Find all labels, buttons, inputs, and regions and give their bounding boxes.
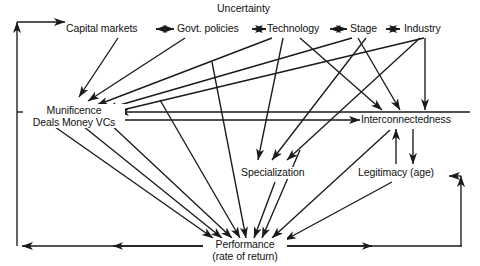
node-specialization: Specialization bbox=[240, 167, 305, 179]
node-munificence-label: Munificence bbox=[24, 104, 124, 116]
node-legitimacy-label: Legitimacy (age) bbox=[358, 166, 434, 178]
node-capital-markets-label: Capital markets bbox=[66, 22, 137, 34]
node-interconnectedness: Interconnectedness bbox=[360, 114, 452, 126]
edge-path4-to-performance bbox=[160, 100, 240, 238]
node-performance-label: Performance bbox=[204, 238, 286, 250]
node-stage-label: Stage bbox=[350, 22, 377, 34]
node-govt-policies-label: Govt. policies bbox=[177, 22, 239, 34]
edge-vcs-to-performance bbox=[108, 122, 232, 238]
edge-stage-to-specialization bbox=[272, 38, 366, 160]
node-industry-label: Industry bbox=[404, 22, 441, 34]
edge-performance-to-capital-markets bbox=[17, 22, 65, 246]
edge-deals-to-performance bbox=[48, 122, 213, 238]
edge-stage-to-munificence bbox=[106, 38, 352, 109]
edge-money-to-performance bbox=[78, 122, 222, 238]
node-technology-label: Technology bbox=[267, 22, 319, 34]
node-stage: Stage bbox=[349, 23, 378, 35]
node-industry: Industry bbox=[403, 23, 442, 35]
node-specialization-label: Specialization bbox=[241, 166, 304, 178]
edge-path7-to-performance bbox=[262, 150, 300, 238]
node-capital-markets: Capital markets bbox=[65, 23, 138, 35]
edge-capital-to-munificence bbox=[79, 38, 118, 97]
node-performance-sublabel: (rate of return) bbox=[204, 250, 286, 262]
edge-govt-to-munificence bbox=[88, 38, 185, 101]
node-legitimacy: Legitimacy (age) bbox=[357, 167, 435, 179]
edge-interconnectedness-to-performance bbox=[272, 130, 390, 238]
node-munificence: Munificence Deals Money VCs bbox=[23, 104, 125, 128]
node-govt-policies: Govt. policies bbox=[176, 23, 240, 35]
edge-performance-to-legitimacy-feedback bbox=[283, 176, 462, 246]
edge-tech-to-interconnectedness bbox=[300, 38, 382, 110]
edge-path5-to-performance bbox=[212, 62, 246, 238]
node-technology: Technology bbox=[266, 23, 320, 35]
node-interconnectedness-label: Interconnectedness bbox=[361, 113, 451, 125]
diagram-edges-layer bbox=[0, 0, 480, 266]
causal-diagram: Uncertainty Capital markets Govt. polici… bbox=[0, 0, 480, 266]
edge-industry-to-specialization bbox=[287, 38, 420, 160]
edge-tech-to-specialization bbox=[258, 38, 283, 160]
edge-specialization-to-performance bbox=[254, 182, 275, 238]
node-munificence-sublabel: Deals Money VCs bbox=[24, 116, 124, 128]
diagram-title: Uncertainty bbox=[215, 2, 272, 14]
node-performance: Performance (rate of return) bbox=[203, 238, 287, 262]
